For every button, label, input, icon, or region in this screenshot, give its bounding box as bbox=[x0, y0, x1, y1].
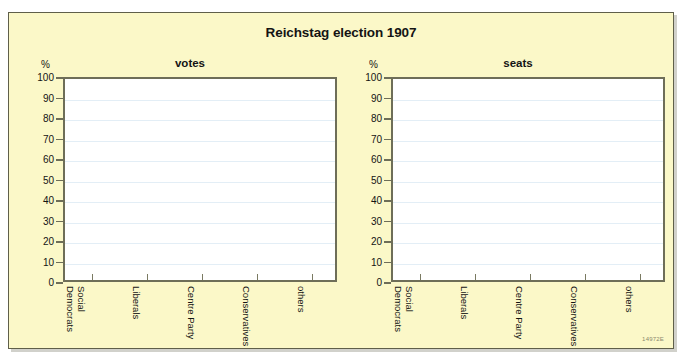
page-title: Reichstag election 1907 bbox=[9, 25, 673, 40]
x-axis-category-label: Conservatives bbox=[568, 286, 579, 346]
x-axis-category-label-line1: Conservatives bbox=[240, 286, 251, 346]
y-axis-tick bbox=[56, 139, 63, 141]
y-axis-tick-label: 70 bbox=[371, 133, 382, 144]
x-axis-category-label-line1: Liberals bbox=[131, 286, 142, 319]
x-axis-tick bbox=[530, 274, 531, 280]
y-axis-tick bbox=[56, 200, 63, 202]
gridline bbox=[65, 243, 335, 244]
y-axis-tick-label: 20 bbox=[43, 236, 54, 247]
x-axis-category-label-line2: Democrats bbox=[65, 286, 76, 332]
gridline bbox=[393, 264, 663, 265]
chart-seats-subtitle: seats bbox=[383, 57, 653, 69]
x-axis-category-label: Centre Party bbox=[186, 286, 197, 339]
x-axis-category-label: Centre Party bbox=[514, 286, 525, 339]
x-axis-category-label: Conservatives bbox=[240, 286, 251, 346]
y-axis-tick-label: 0 bbox=[48, 277, 54, 288]
y-axis-tick-label: 10 bbox=[371, 256, 382, 267]
gridline bbox=[65, 223, 335, 224]
y-axis-tick bbox=[384, 262, 391, 264]
y-axis-tick bbox=[56, 282, 63, 284]
gridline bbox=[393, 243, 663, 244]
y-axis-tick bbox=[56, 98, 63, 100]
y-axis-tick bbox=[384, 139, 391, 141]
gridline bbox=[393, 202, 663, 203]
x-axis-category-label-line1: others bbox=[295, 286, 306, 312]
gridline bbox=[65, 141, 335, 142]
y-axis-tick-label: 10 bbox=[43, 256, 54, 267]
gridline bbox=[65, 182, 335, 183]
x-axis-tick bbox=[92, 274, 93, 280]
x-axis-tick bbox=[475, 274, 476, 280]
x-axis-category-label-line1: Conservatives bbox=[568, 286, 579, 346]
gridline bbox=[393, 141, 663, 142]
y-axis-tick bbox=[384, 159, 391, 161]
x-axis-category-label: Liberals bbox=[131, 286, 142, 319]
y-axis-tick-label: 40 bbox=[371, 195, 382, 206]
y-axis-tick-label: 90 bbox=[43, 92, 54, 103]
y-axis-tick-label: 80 bbox=[43, 113, 54, 124]
x-axis-category-label-line1: Social bbox=[76, 286, 87, 332]
gridline bbox=[393, 161, 663, 162]
gridline bbox=[393, 100, 663, 101]
x-axis-category-label: Liberals bbox=[459, 286, 470, 319]
y-axis-unit-label: % bbox=[41, 59, 50, 70]
x-axis-category-label-line1: Social bbox=[404, 286, 415, 332]
x-axis-tick bbox=[257, 274, 258, 280]
y-axis-tick-label: 100 bbox=[365, 72, 382, 83]
y-axis-tick-label: 20 bbox=[371, 236, 382, 247]
x-axis-tick bbox=[585, 274, 586, 280]
chart-votes: % votes 1009080706050403020100 SocialDem… bbox=[21, 57, 345, 342]
chart-votes-plot-area bbox=[63, 77, 337, 282]
gridline bbox=[393, 182, 663, 183]
x-axis-category-label-line2: Democrats bbox=[393, 286, 404, 332]
x-axis-category-label-line1: Liberals bbox=[459, 286, 470, 319]
x-axis-tick bbox=[312, 274, 313, 280]
y-axis-tick-label: 50 bbox=[371, 174, 382, 185]
x-axis-category-label: others bbox=[623, 286, 634, 312]
gridline bbox=[393, 120, 663, 121]
y-axis-tick bbox=[384, 77, 391, 79]
x-axis-tick bbox=[420, 274, 421, 280]
x-axis-category-label-line1: Centre Party bbox=[514, 286, 525, 339]
y-axis-tick bbox=[384, 98, 391, 100]
chart-votes-subtitle: votes bbox=[55, 57, 325, 69]
y-axis-tick-label: 0 bbox=[376, 277, 382, 288]
figure-panel: Reichstag election 1907 % votes 10090807… bbox=[8, 12, 674, 349]
y-axis-tick bbox=[56, 118, 63, 120]
y-axis-tick-label: 90 bbox=[371, 92, 382, 103]
y-axis-tick-label: 80 bbox=[371, 113, 382, 124]
y-axis-tick bbox=[56, 221, 63, 223]
gridline bbox=[65, 100, 335, 101]
chart-votes-x-axis-labels: SocialDemocratsLiberalsCentre PartyConse… bbox=[63, 284, 337, 342]
gridline bbox=[65, 264, 335, 265]
figure-reference-code: 14972E bbox=[642, 336, 664, 342]
y-axis-tick bbox=[384, 180, 391, 182]
y-axis-tick bbox=[384, 282, 391, 284]
gridline bbox=[393, 223, 663, 224]
chart-seats: % seats 1009080706050403020100 SocialDem… bbox=[349, 57, 673, 342]
gridline bbox=[65, 202, 335, 203]
y-axis-tick bbox=[56, 241, 63, 243]
y-axis-tick-label: 30 bbox=[371, 215, 382, 226]
y-axis-tick-label: 70 bbox=[43, 133, 54, 144]
y-axis-tick bbox=[56, 77, 63, 79]
y-axis-tick-label: 60 bbox=[371, 154, 382, 165]
y-axis-tick-label: 100 bbox=[37, 72, 54, 83]
y-axis-tick bbox=[56, 159, 63, 161]
y-axis-tick-label: 40 bbox=[43, 195, 54, 206]
y-axis-tick bbox=[384, 200, 391, 202]
chart-seats-plot-area bbox=[391, 77, 665, 282]
y-axis-tick bbox=[384, 221, 391, 223]
y-axis-tick bbox=[56, 180, 63, 182]
x-axis-tick bbox=[147, 274, 148, 280]
chart-seats-x-axis-labels: SocialDemocratsLiberalsCentre PartyConse… bbox=[391, 284, 665, 342]
y-axis-tick bbox=[56, 262, 63, 264]
y-axis-tick bbox=[384, 241, 391, 243]
gridline bbox=[65, 161, 335, 162]
y-axis-tick-label: 60 bbox=[43, 154, 54, 165]
x-axis-category-label: SocialDemocrats bbox=[65, 286, 86, 332]
x-axis-category-label: SocialDemocrats bbox=[393, 286, 414, 332]
y-axis-unit-label: % bbox=[369, 59, 378, 70]
gridline bbox=[65, 120, 335, 121]
x-axis-category-label-line1: others bbox=[623, 286, 634, 312]
